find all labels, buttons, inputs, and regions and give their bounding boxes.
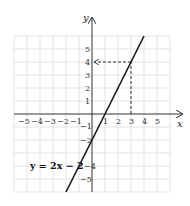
- y-axis-label: y: [82, 12, 89, 23]
- svg-text:5: 5: [85, 45, 90, 54]
- equation-label: y = 2x − 2: [29, 160, 84, 171]
- svg-text:4: 4: [85, 58, 90, 67]
- svg-text:−3: −3: [44, 117, 56, 126]
- svg-text:5: 5: [155, 117, 160, 126]
- svg-text:−2: −2: [80, 136, 92, 145]
- svg-text:1: 1: [103, 117, 108, 126]
- svg-text:−5: −5: [18, 117, 30, 126]
- svg-text:3: 3: [129, 117, 134, 126]
- svg-text:−4: −4: [84, 162, 96, 171]
- svg-text:2: 2: [85, 84, 90, 93]
- x-axis-label: x: [177, 118, 183, 129]
- coordinate-plane: y x −5 −4 −3 −2 −1 1 2 3 4 5 5 4 3 2 1 −…: [0, 0, 190, 206]
- svg-text:−5: −5: [80, 175, 92, 184]
- svg-text:−2: −2: [57, 117, 69, 126]
- svg-text:−4: −4: [31, 117, 43, 126]
- svg-text:4: 4: [142, 117, 147, 126]
- svg-text:2: 2: [116, 117, 121, 126]
- svg-text:3: 3: [85, 71, 90, 80]
- svg-text:−1: −1: [80, 122, 92, 131]
- svg-text:1: 1: [85, 97, 90, 106]
